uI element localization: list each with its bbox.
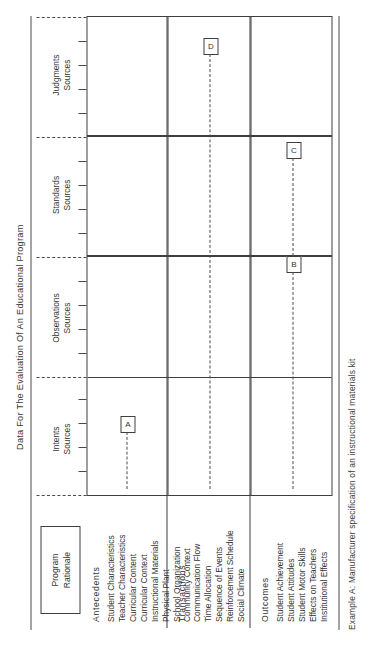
program-rationale-box: Program Rationale [40,526,80,614]
column-header-observations-line2: Sources [61,303,71,334]
list-item: Physical Plant [160,490,171,622]
tick-mark [78,89,86,90]
column-header-judgments-line1: Judgments [50,55,60,96]
list-item: Reinforcement Schedule [224,490,235,622]
tick-mark [78,161,86,162]
column-header-standards: Standards Sources [36,136,86,254]
row-items-outcomes: Student Achievement Student Attitudes St… [274,490,329,622]
row-section-outcomes: Outcomes Student Achievement Student Att… [259,490,329,622]
marker-c-label: C [291,146,297,155]
column-header-observations: Observations Sources [36,258,86,378]
figure-stage: Data For The Evaluation Of An Educationa… [0,0,367,646]
header-dash-1 [36,377,86,378]
marker-c[interactable]: C [286,142,301,159]
tick-mark [78,65,86,66]
list-item: Communication Flow [191,490,202,622]
tick-mark [78,353,86,354]
list-item: Curricular Context [138,490,149,622]
row-title-transactions: Transactions [176,490,186,622]
tick-mark [78,447,86,448]
header-dash-3 [36,137,86,138]
bottom-rule [338,16,339,630]
section-rule-transactions-outcomes [249,16,250,628]
list-item: Time Allocation [202,490,213,622]
marker-b[interactable]: B [286,256,301,273]
figure-title: Data For The Evaluation Of An Educationa… [14,224,24,450]
leader-line-c [292,158,293,256]
list-item: Social Climate [235,490,246,622]
tick-mark [78,233,86,234]
list-item: Student Achievement [274,490,285,622]
leader-line-d [209,54,210,489]
leader-line-b [292,272,293,489]
tick-mark [78,281,86,282]
program-rationale-line1: Program [48,554,60,587]
column-header-intents-line2: Sources [61,424,71,455]
tick-mark [78,329,86,330]
list-item: Institutional Effects [318,490,329,622]
tick-mark [78,471,86,472]
list-item: Curricular Content [127,490,138,622]
row-title-outcomes: Outcomes [259,490,269,622]
marker-a[interactable]: A [120,416,135,433]
tick-mark [78,113,86,114]
header-dash-2 [36,257,86,258]
marker-a-label: A [125,420,130,429]
list-item: Effects on Teachers [307,490,318,622]
row-section-transactions: Transactions Communication Flow Time All… [176,490,246,622]
column-header-observations-line1: Observations [50,293,60,342]
header-dash-right [36,17,86,18]
marker-b-label: B [291,260,296,269]
column-header-judgments-line2: Sources [61,60,71,91]
list-item: Teacher Characteristics [116,490,127,622]
list-item: Student Attitudes [285,490,296,622]
list-item: Sequence of Events [213,490,224,622]
list-item: Instructional Materials [149,490,160,622]
tick-mark [78,305,86,306]
list-item: Student Motor Skills [296,490,307,622]
column-header-intents-line1: Intents [50,426,60,451]
tick-mark [78,41,86,42]
program-rationale-line2: Rationale [60,552,72,588]
row-title-antecedents: Antecedents [90,490,100,622]
column-header-judgments: Judgments Sources [36,18,86,132]
tick-mark [78,209,86,210]
tick-mark [78,399,86,400]
leader-line-a [126,432,127,489]
list-item: Student Characteristics [105,490,116,622]
header-dash-left [36,495,86,496]
figure-caption: Example A: Manufacturer specification of… [346,358,356,630]
column-header-standards-line2: Sources [61,180,71,211]
row-items-transactions: Communication Flow Time Allocation Seque… [191,490,246,622]
marker-d[interactable]: D [203,38,218,55]
tick-mark [78,423,86,424]
top-rule [30,16,31,630]
marker-d-label: D [208,42,214,51]
tick-mark [78,185,86,186]
column-header-standards-line1: Standards [50,176,60,214]
figure-sheet: Data For The Evaluation Of An Educationa… [0,0,367,646]
